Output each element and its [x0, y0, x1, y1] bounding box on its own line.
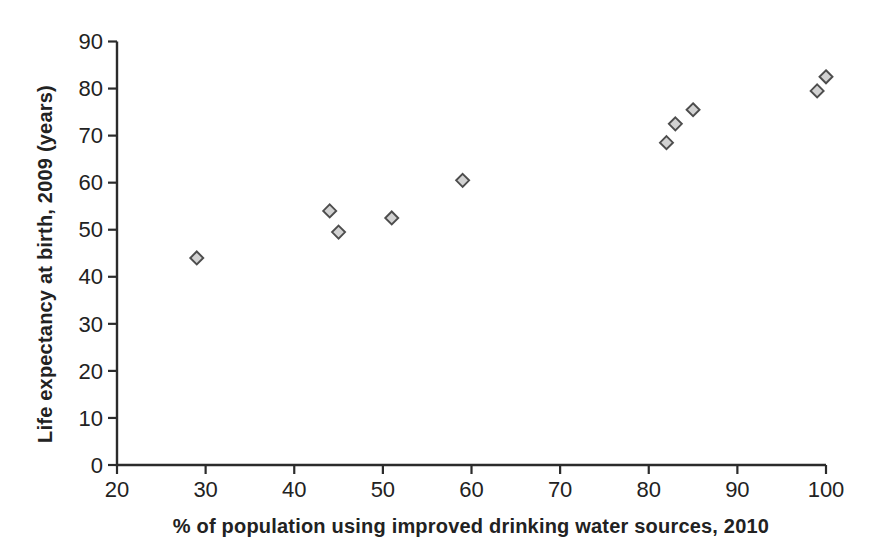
point-layer — [190, 70, 832, 264]
y-tick-label: 40 — [79, 264, 103, 289]
data-point-diamond — [660, 136, 673, 149]
data-point-diamond — [385, 211, 398, 224]
data-point-diamond — [669, 117, 682, 130]
axes-layer — [117, 42, 826, 466]
data-point-diamond — [811, 84, 824, 97]
y-tick-label: 50 — [79, 217, 103, 242]
data-point-diamond — [456, 174, 469, 187]
y-tick-label: 20 — [79, 359, 103, 384]
chart-canvas: 20304050607080901000102030405060708090 %… — [0, 0, 873, 557]
x-tick-label: 50 — [371, 477, 395, 502]
x-axis-title: % of population using improved drinking … — [173, 515, 769, 537]
data-point-diamond — [190, 251, 203, 264]
data-point-diamond — [323, 204, 336, 217]
x-tick-label: 60 — [459, 477, 483, 502]
axis-spine — [117, 42, 826, 466]
y-tick-label: 30 — [79, 312, 103, 337]
scatter-figure: 20304050607080901000102030405060708090 %… — [0, 0, 873, 557]
x-tick-label: 40 — [282, 477, 306, 502]
data-point-diamond — [332, 226, 345, 239]
y-tick-label: 80 — [79, 76, 103, 101]
x-tick-label: 20 — [105, 477, 129, 502]
y-tick-label: 10 — [79, 406, 103, 431]
x-tick-label: 90 — [725, 477, 749, 502]
y-tick-label: 0 — [91, 453, 103, 478]
data-point-diamond — [820, 70, 833, 83]
y-axis-title: Life expectancy at birth, 2009 (years) — [34, 85, 56, 443]
x-tick-label: 70 — [548, 477, 572, 502]
x-tick-label: 80 — [637, 477, 661, 502]
tick-layer: 20304050607080901000102030405060708090 — [79, 29, 845, 502]
x-tick-label: 100 — [808, 477, 845, 502]
y-tick-label: 60 — [79, 170, 103, 195]
y-tick-label: 70 — [79, 123, 103, 148]
data-point-diamond — [687, 103, 700, 116]
y-tick-label: 90 — [79, 29, 103, 54]
x-tick-label: 30 — [193, 477, 217, 502]
